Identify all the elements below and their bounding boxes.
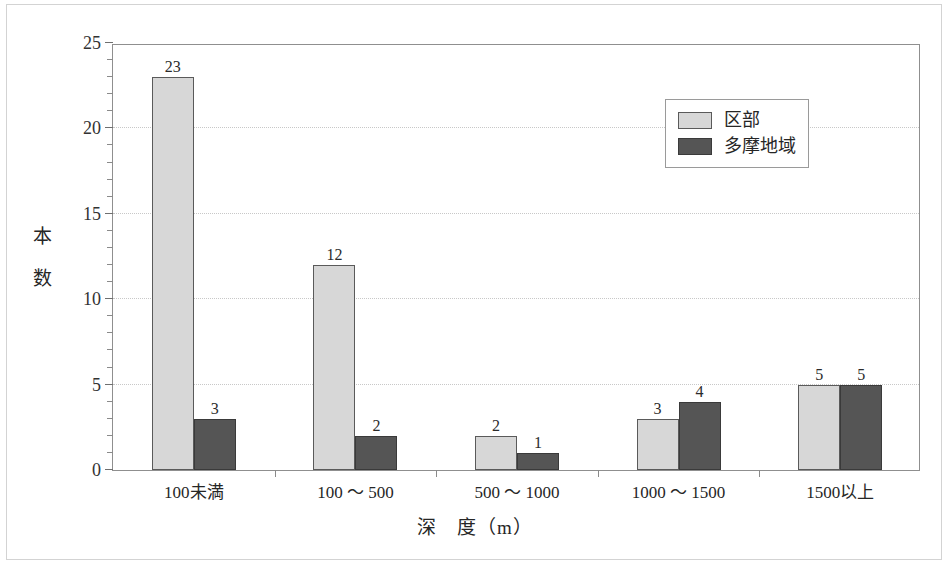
y-axis-minor-tick [107, 179, 113, 180]
y-axis-minor-tick [107, 264, 113, 265]
x-axis-category-label: 500 ～ 1000 [475, 484, 560, 501]
bar-kubu-4: 3 [637, 419, 679, 470]
y-axis-minor-tick [107, 281, 113, 282]
legend-swatch-light-icon [678, 112, 712, 129]
y-axis-minor-tick [107, 162, 113, 163]
y-axis-minor-tick [107, 247, 113, 248]
x-axis-title: 深 度（m） [0, 512, 950, 539]
x-axis-category-label: 1500以上 [806, 484, 874, 501]
y-axis-minor-tick [107, 59, 113, 60]
x-axis-tick [436, 470, 437, 477]
y-axis-tick-label: 10 [83, 290, 101, 308]
gridline [113, 298, 919, 299]
y-axis-minor-tick [107, 110, 113, 111]
bar-tama-2: 2 [355, 436, 397, 470]
bar-kubu-2: 12 [313, 265, 355, 470]
bar-value-label: 1 [534, 435, 542, 451]
y-axis-major-tick [105, 298, 113, 299]
y-axis-minor-tick [107, 435, 113, 436]
bar-value-label: 4 [696, 384, 704, 400]
bar-value-label: 2 [372, 418, 380, 434]
legend-swatch-dark-icon [678, 138, 712, 155]
x-axis-category-label: 100 ～ 500 [317, 484, 394, 501]
legend-label-tama: 多摩地域 [724, 137, 796, 155]
legend-item-kubu[interactable]: 区部 [678, 107, 796, 133]
y-axis-minor-tick [107, 93, 113, 94]
bar-value-label: 2 [492, 418, 500, 434]
y-axis-minor-tick [107, 452, 113, 453]
bar-kubu-5: 5 [798, 385, 840, 470]
y-axis-major-tick [105, 127, 113, 128]
y-axis-minor-tick [107, 230, 113, 231]
y-axis-tick-label: 20 [83, 119, 101, 137]
y-axis-tick-label: 0 [92, 461, 101, 479]
y-axis-minor-tick [107, 401, 113, 402]
bar-kubu-1: 23 [152, 77, 194, 470]
y-axis-minor-tick [107, 367, 113, 368]
x-axis-tick [598, 470, 599, 477]
gridline [113, 213, 919, 214]
bar-value-label: 3 [654, 401, 662, 417]
y-axis-major-tick [105, 42, 113, 43]
y-axis-tick-label: 25 [83, 34, 101, 52]
bar-value-label: 12 [326, 247, 342, 263]
y-axis-major-tick [105, 213, 113, 214]
y-axis-minor-tick [107, 196, 113, 197]
bar-tama-3: 1 [517, 453, 559, 470]
y-axis-minor-tick [107, 315, 113, 316]
bar-tama-4: 4 [679, 402, 721, 470]
bar-value-label: 3 [211, 401, 219, 417]
y-axis-tick-label: 15 [83, 205, 101, 223]
y-axis-minor-tick [107, 332, 113, 333]
x-axis-tick [759, 470, 760, 477]
legend-item-tama[interactable]: 多摩地域 [678, 133, 796, 159]
bar-value-label: 5 [815, 367, 823, 383]
y-axis-major-tick [105, 469, 113, 470]
y-axis-minor-tick [107, 349, 113, 350]
y-axis-minor-tick [107, 144, 113, 145]
bar-value-label: 5 [857, 367, 865, 383]
y-axis-tick-label: 5 [92, 376, 101, 394]
legend: 区部 多摩地域 [665, 99, 809, 168]
x-axis-category-label: 100未満 [164, 484, 224, 501]
bar-chart-figure: 本 数 0510152025 233122213455 100未満100 ～ 5… [0, 0, 950, 567]
x-axis-category-label: 1000 ～ 1500 [632, 484, 726, 501]
bar-value-label: 23 [165, 59, 181, 75]
y-axis-major-tick [105, 384, 113, 385]
y-axis-minor-tick [107, 76, 113, 77]
y-axis-title: 本 数 [30, 226, 52, 289]
bar-tama-5: 5 [840, 385, 882, 470]
y-axis-minor-tick [107, 418, 113, 419]
bar-kubu-3: 2 [475, 436, 517, 470]
x-axis-tick [275, 470, 276, 477]
bar-tama-1: 3 [194, 419, 236, 470]
legend-label-kubu: 区部 [724, 111, 760, 129]
